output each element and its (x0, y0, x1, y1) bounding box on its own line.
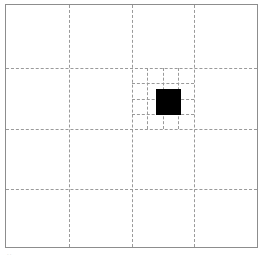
coarse-gridline-vertical-1 (69, 5, 70, 247)
sub-gridline-horizontal-1 (132, 83, 194, 84)
coarse-gridline-vertical-3 (194, 5, 195, 247)
coarse-gridline-horizontal-2 (6, 129, 257, 130)
caption-mark: .. (7, 250, 12, 256)
refined-cell-region (132, 68, 194, 129)
coarse-gridline-horizontal-3 (6, 189, 257, 190)
figure-root: .. (0, 0, 264, 259)
filled-subcell (156, 89, 181, 115)
plot-frame (5, 4, 258, 248)
